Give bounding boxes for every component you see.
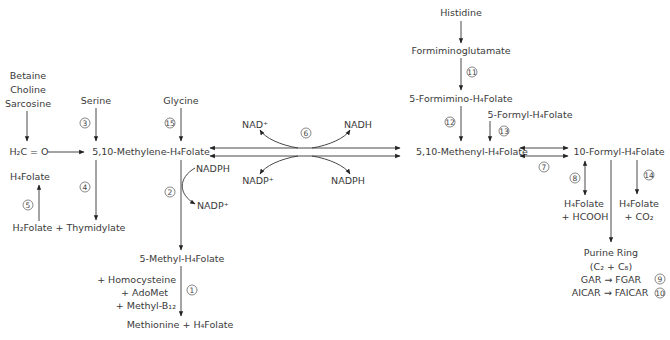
node-purine-carbons: (C₂ + C₈)	[590, 261, 632, 272]
node-betaine: Betaine	[10, 70, 47, 81]
node-formimino-h4folate: 5-Formimino-H₄Folate	[409, 93, 512, 104]
node-glycine: Glycine	[163, 95, 199, 106]
svg-text:5: 5	[26, 201, 31, 210]
node-gar-fgar: GAR → FGAR	[581, 274, 642, 285]
svg-text:10: 10	[655, 289, 665, 298]
svg-text:6: 6	[304, 129, 309, 138]
arrow-to-nadh	[312, 130, 350, 148]
svg-text:1: 1	[190, 286, 195, 295]
reaction-number-9: 9	[655, 274, 665, 284]
svg-text:11: 11	[467, 68, 477, 77]
svg-text:2: 2	[168, 188, 173, 197]
svg-text:14: 14	[644, 171, 654, 180]
reaction-number-2: 2	[165, 187, 175, 197]
node-methenyl-h4folate: 5,10-Methenyl-H₄Folate	[416, 146, 528, 157]
folate-pathway-diagram: Betaine Choline Sarcosine H₂C = O Serine…	[0, 0, 670, 340]
node-choline: Choline	[10, 84, 46, 95]
reaction-number-12: 12	[445, 117, 455, 127]
reaction-number-6: 6	[301, 128, 311, 138]
svg-text:12: 12	[445, 118, 455, 127]
node-h2folate-thymidylate: H₂Folate + Thymidylate	[13, 222, 126, 233]
node-nadp-2: NADP⁺	[197, 200, 229, 211]
node-formaldehyde: H₂C = O	[9, 146, 48, 157]
node-h4folate-14: H₄Folate	[619, 198, 659, 209]
node-formiminoglutamate: Formiminoglutamate	[411, 45, 510, 56]
node-homocysteine: + Homocysteine	[97, 274, 176, 285]
reaction-number-14: 14	[644, 170, 654, 180]
node-methionine-h4folate: Methionine + H₄Folate	[127, 319, 234, 330]
svg-text:9: 9	[658, 275, 663, 284]
reaction-number-10: 10	[655, 288, 665, 298]
node-formyl10-h4folate: 10-Formyl-H₄Folate	[573, 146, 664, 157]
reaction-number-1: 1	[187, 285, 197, 295]
arrow-to-nad	[260, 130, 298, 148]
node-sarcosine: Sarcosine	[5, 98, 51, 109]
node-nadph-2: NADPH	[196, 163, 230, 174]
reaction-number-3: 3	[80, 118, 90, 128]
node-aicar-faicar: AICAR → FAICAR	[572, 287, 649, 298]
svg-text:13: 13	[499, 127, 509, 136]
node-h4folate-8: H₄Folate	[564, 198, 604, 209]
svg-text:3: 3	[83, 119, 88, 128]
node-nad-plus: NAD⁺	[242, 119, 268, 130]
reaction-number-11: 11	[467, 67, 477, 77]
reaction-number-7: 7	[539, 162, 549, 172]
svg-text:4: 4	[83, 183, 88, 192]
reaction-number-13: 13	[499, 126, 509, 136]
node-methylene-h4folate: 5,10-Methylene-H₄Folate	[92, 146, 210, 157]
node-methyl-h4folate: 5-Methyl-H₄Folate	[140, 253, 225, 264]
reaction-number-8: 8	[570, 173, 580, 183]
svg-text:8: 8	[573, 174, 578, 183]
node-hcooh: + HCOOH	[562, 211, 609, 222]
node-formyl5-h4folate: 5-Formyl-H₄Folate	[487, 109, 572, 120]
svg-text:15: 15	[165, 119, 175, 128]
node-methyl-b12: + Methyl-B₁₂	[116, 300, 176, 311]
arrow-to-nadph	[312, 156, 350, 174]
svg-text:7: 7	[542, 163, 547, 172]
node-purine-ring: Purine Ring	[584, 247, 638, 258]
arrow-to-nadp	[260, 156, 298, 174]
node-adomet: + AdoMet	[121, 287, 168, 298]
reaction-number-4: 4	[80, 182, 90, 192]
reaction-number-15: 15	[165, 118, 175, 128]
node-nadp-plus-6: NADP⁺	[242, 175, 274, 186]
node-serine: Serine	[81, 95, 111, 106]
node-histidine: Histidine	[440, 7, 482, 18]
node-co2: + CO₂	[625, 211, 654, 222]
node-h4folate-left: H₄Folate	[10, 171, 50, 182]
arrow-nadph-to-nadp	[182, 168, 195, 204]
reaction-number-5: 5	[23, 200, 33, 210]
node-nadh: NADH	[344, 119, 372, 130]
node-nadph-6: NADPH	[331, 175, 365, 186]
